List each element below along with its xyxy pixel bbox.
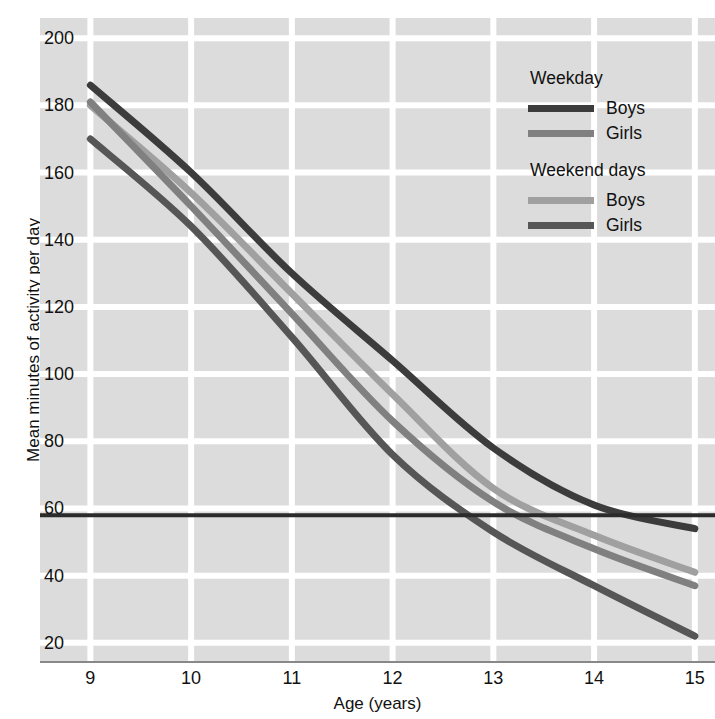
legend-entry: Girls — [528, 213, 708, 238]
legend-entry: Boys — [528, 188, 708, 213]
chart-legend: WeekdayBoysGirlsWeekend daysBoysGirls — [528, 68, 708, 238]
y-tick-label: 60 — [44, 497, 64, 519]
activity-by-age-chart: Mean minutes of activity per day 2040608… — [0, 0, 715, 719]
y-tick-label: 180 — [44, 94, 74, 116]
y-tick-label: 40 — [44, 565, 64, 587]
x-tick-label: 9 — [70, 668, 110, 689]
legend-entry-label: Boys — [606, 98, 645, 119]
x-axis-title: Age (years) — [40, 694, 715, 714]
y-tick-label: 200 — [44, 27, 74, 49]
legend-color-swatch — [528, 105, 594, 112]
y-tick-label: 120 — [44, 296, 74, 318]
y-tick-label: 160 — [44, 162, 74, 184]
legend-group-title: Weekday — [530, 68, 708, 89]
legend-color-swatch — [528, 197, 594, 204]
legend-entry-label: Girls — [606, 123, 642, 144]
legend-entry-label: Girls — [606, 215, 642, 236]
legend-group-title: Weekend days — [530, 160, 708, 181]
legend-color-swatch — [528, 222, 594, 229]
legend-entry: Boys — [528, 96, 708, 121]
legend-color-swatch — [528, 130, 594, 137]
legend-entry-label: Boys — [606, 190, 645, 211]
y-tick-label: 100 — [44, 363, 74, 385]
x-tick-label: 10 — [171, 668, 211, 689]
y-tick-label: 140 — [44, 229, 74, 251]
x-tick-label: 11 — [272, 668, 312, 689]
x-tick-label: 15 — [675, 668, 715, 689]
x-tick-label: 12 — [373, 668, 413, 689]
x-tick-label: 13 — [473, 668, 513, 689]
y-tick-label: 80 — [44, 430, 64, 452]
legend-entry: Girls — [528, 121, 708, 146]
x-tick-label: 14 — [574, 668, 614, 689]
y-tick-label: 20 — [44, 632, 64, 654]
